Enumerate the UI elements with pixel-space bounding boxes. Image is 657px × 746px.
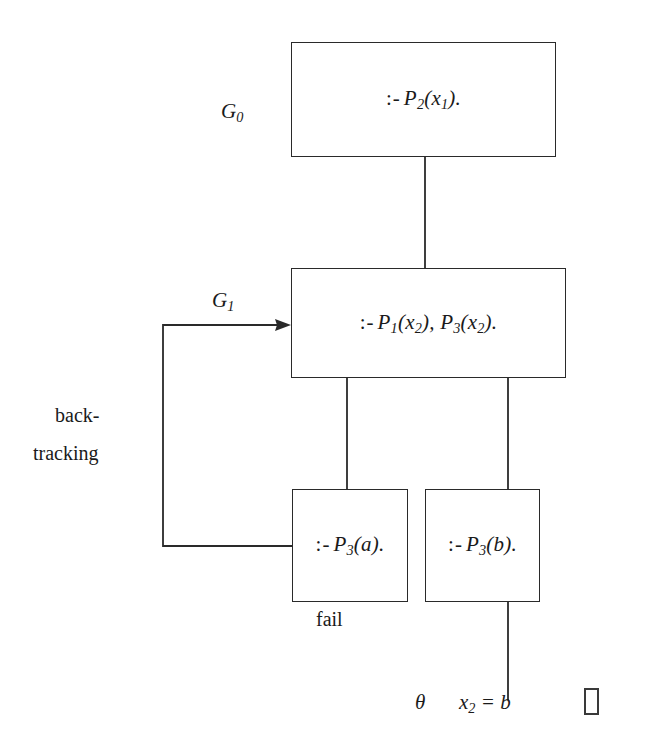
backtracking-arrowhead [275,319,291,331]
diagram-canvas: :-P2(x1). G0 :-P1(x2), P3(x2). G1 :-P3(a… [0,0,657,746]
backtracking-label-line2: tracking [33,442,99,465]
fail-label: fail [316,608,343,631]
goal-node-p3b[interactable]: :-P3(b). [425,489,540,602]
goal-node-g1[interactable]: :-P1(x2), P3(x2). [291,268,566,378]
empty-clause-box-icon [584,688,599,717]
goal-node-g0[interactable]: :-P2(x1). [291,42,556,157]
goal-node-p3a[interactable]: :-P3(a). [292,489,408,602]
goal-node-p3a-text: :-P3(a). [316,532,385,559]
goal-node-g0-text: :-P2(x1). [386,86,461,113]
substitution-label: x2 = b [459,690,511,717]
backtracking-path [163,325,292,546]
goal-node-p3b-text: :-P3(b). [448,532,517,559]
theta-label: θ [415,690,425,715]
backtracking-label-line1: back- [55,404,99,427]
goal-node-g1-side-label: G1 [212,288,234,315]
goal-node-g1-text: :-P1(x2), P3(x2). [360,310,497,337]
goal-node-g0-side-label: G0 [221,99,243,126]
